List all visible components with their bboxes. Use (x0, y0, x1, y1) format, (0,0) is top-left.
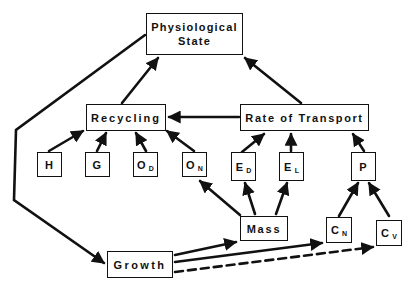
edge-od-to-recycling (136, 133, 146, 151)
edge-mass-to-on (200, 181, 240, 215)
edge-growth-to-cn (175, 243, 322, 262)
node-c-n: CN (326, 217, 352, 243)
node-label: P (359, 160, 368, 174)
edge-cv-to-p (369, 183, 389, 216)
node-label: O (186, 158, 196, 172)
edge-mass-to-ed (245, 183, 255, 214)
node-label: E (236, 160, 245, 174)
node-physiological-state: Physiological State (146, 13, 243, 55)
edge-cn-to-p (339, 183, 358, 216)
node-label: O (137, 158, 147, 172)
node-g: G (85, 152, 110, 177)
node-h: H (37, 152, 62, 177)
node-recycling: Recycling (86, 104, 166, 131)
edge-p-to-transport (353, 134, 364, 151)
edge-h-to-recycling (49, 131, 83, 151)
node-label: Growth (114, 258, 167, 272)
edge-growth-to-cv (175, 247, 373, 272)
edge-ed-to-transport (242, 134, 264, 152)
edge-recycling-to-state (122, 58, 158, 103)
node-e-l: EL (279, 152, 304, 181)
edge-growth-to-mass (175, 242, 236, 255)
node-label: State (178, 34, 211, 48)
node-subscript: D (149, 162, 154, 176)
node-label: Rate of Transport (245, 111, 363, 125)
node-label: Recycling (91, 111, 161, 125)
node-mass: Mass (240, 216, 288, 241)
node-label: Mass (247, 222, 282, 236)
node-e-d: ED (231, 152, 256, 181)
edge-state-to-growth (14, 35, 145, 263)
node-label: C (381, 226, 390, 240)
node-subscript: N (198, 162, 203, 176)
node-label: C (331, 223, 340, 237)
node-label: Physiological (151, 20, 238, 34)
node-subscript: D (246, 164, 251, 178)
node-p: P (351, 152, 376, 181)
edge-mass-to-el (276, 183, 287, 214)
node-subscript: V (392, 230, 397, 244)
node-growth: Growth (107, 251, 173, 278)
edge-transport-to-state (245, 58, 301, 103)
edge-on-to-recycling (167, 131, 194, 151)
node-o-n: ON (182, 152, 207, 177)
node-subscript: N (342, 227, 347, 241)
node-label: G (93, 158, 103, 172)
node-subscript: L (295, 164, 299, 178)
node-c-v: CV (376, 220, 402, 246)
node-label: E (284, 160, 293, 174)
node-rate-of-transport: Rate of Transport (240, 104, 369, 131)
node-label: H (45, 158, 54, 172)
node-o-d: OD (133, 152, 158, 177)
edge-g-to-recycling (97, 133, 106, 151)
